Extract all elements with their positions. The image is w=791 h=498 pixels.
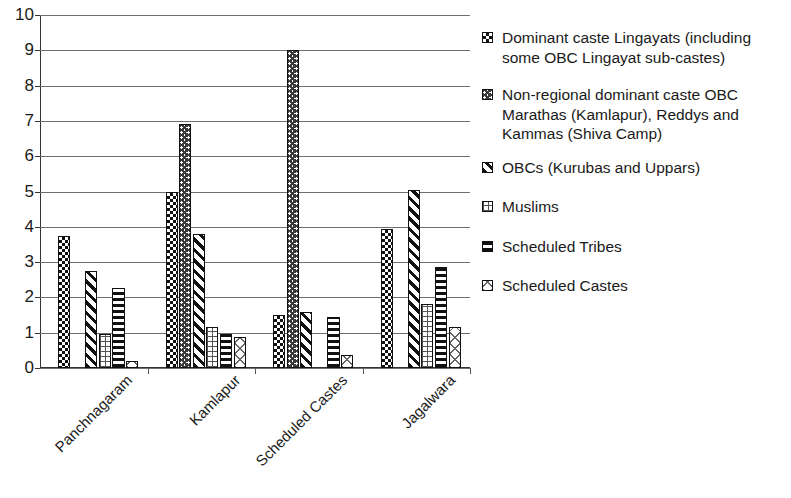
y-tick-label: 7 bbox=[0, 112, 34, 129]
bar-chart-figure: 012345678910 PanchnagaramKamlapurSchedul… bbox=[0, 0, 791, 498]
legend-item-label: Muslims bbox=[502, 197, 559, 217]
y-tick-label: 9 bbox=[0, 41, 34, 58]
y-tick-mark bbox=[35, 333, 40, 334]
gridline bbox=[40, 227, 470, 228]
legend-item-label: Dominant caste Lingayats (including some… bbox=[502, 28, 784, 67]
legend-item-label: Scheduled Tribes bbox=[502, 237, 622, 257]
y-tick-mark bbox=[35, 15, 40, 16]
legend-item[interactable]: Non-regional dominant caste OBC Marathas… bbox=[482, 85, 787, 144]
x-category-label: Kamlapur bbox=[186, 372, 243, 429]
legend-swatch-icon bbox=[482, 201, 493, 212]
gridline bbox=[40, 333, 470, 334]
legend-item[interactable]: Scheduled Tribes bbox=[482, 237, 787, 257]
gridline bbox=[40, 156, 470, 157]
legend-swatch-icon bbox=[482, 241, 493, 252]
y-tick-label: 10 bbox=[0, 6, 34, 23]
y-tick-label: 3 bbox=[0, 253, 34, 270]
y-tick-label: 5 bbox=[0, 183, 34, 200]
legend-item[interactable]: Dominant caste Lingayats (including some… bbox=[482, 28, 787, 67]
gridline bbox=[40, 50, 470, 51]
legend-swatch-icon bbox=[482, 89, 493, 100]
y-tick-mark bbox=[35, 297, 40, 298]
y-tick-mark bbox=[35, 262, 40, 263]
y-tick-label: 0 bbox=[0, 359, 34, 376]
gridline bbox=[40, 121, 470, 122]
y-tick-label: 8 bbox=[0, 77, 34, 94]
y-tick-mark bbox=[35, 227, 40, 228]
y-tick-mark bbox=[35, 86, 40, 87]
y-tick-label: 6 bbox=[0, 147, 34, 164]
gridline bbox=[40, 297, 470, 298]
x-axis-category-labels: PanchnagaramKamlapurScheduled CastesJaga… bbox=[40, 372, 470, 498]
legend-swatch-icon bbox=[482, 162, 493, 173]
y-axis-tick-labels: 012345678910 bbox=[0, 0, 34, 380]
legend-swatch-icon bbox=[482, 280, 493, 291]
legend-item[interactable]: OBCs (Kurubas and Uppars) bbox=[482, 158, 787, 178]
y-tick-mark bbox=[35, 156, 40, 157]
y-tick-mark bbox=[35, 368, 40, 369]
x-category-label: Jagalwara bbox=[398, 372, 458, 432]
legend-item[interactable]: Scheduled Castes bbox=[482, 276, 787, 296]
y-tick-label: 1 bbox=[0, 324, 34, 341]
x-category-label: Scheduled Castes bbox=[253, 372, 350, 469]
gridline bbox=[40, 86, 470, 87]
chart-axes bbox=[40, 15, 470, 368]
legend-item-label: OBCs (Kurubas and Uppars) bbox=[502, 158, 700, 178]
plot-area: 012345678910 PanchnagaramKamlapurSchedul… bbox=[0, 0, 470, 498]
x-category-label: Panchnagaram bbox=[52, 372, 135, 455]
gridline bbox=[40, 15, 470, 16]
y-tick-mark bbox=[35, 50, 40, 51]
y-tick-label: 2 bbox=[0, 288, 34, 305]
legend-item[interactable]: Muslims bbox=[482, 197, 787, 217]
gridline bbox=[40, 192, 470, 193]
gridline bbox=[40, 262, 470, 263]
y-tick-mark bbox=[35, 121, 40, 122]
y-tick-label: 4 bbox=[0, 218, 34, 235]
chart-legend: Dominant caste Lingayats (including some… bbox=[482, 28, 787, 310]
legend-item-label: Scheduled Castes bbox=[502, 276, 628, 296]
y-tick-mark bbox=[35, 192, 40, 193]
legend-item-label: Non-regional dominant caste OBC Marathas… bbox=[502, 85, 784, 144]
x-tick-mark bbox=[470, 368, 471, 374]
legend-swatch-icon bbox=[482, 32, 493, 43]
